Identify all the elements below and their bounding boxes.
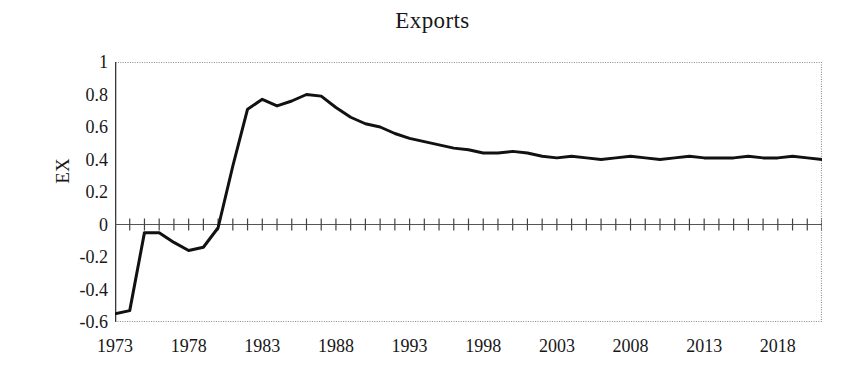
x-tick-label: 2003 — [539, 336, 575, 357]
data-series-group — [115, 95, 822, 314]
x-tick-label: 2018 — [760, 336, 796, 357]
y-tick-label: 1 — [50, 52, 108, 73]
y-axis-tick-labels: 10.80.60.40.20-0.2-0.4-0.6 — [46, 62, 108, 322]
x-tick-label: 2008 — [613, 336, 649, 357]
y-tick-label: 0.4 — [50, 149, 108, 170]
x-tick-label: 1983 — [244, 336, 280, 357]
x-tick-label: 1993 — [392, 336, 428, 357]
x-tick-label: 1973 — [97, 336, 133, 357]
y-tick-label: 0.2 — [50, 182, 108, 203]
y-tick-label: -0.6 — [50, 312, 108, 333]
line-chart-svg — [115, 62, 822, 322]
y-tick-label: 0 — [50, 214, 108, 235]
y-tick-label: -0.2 — [50, 247, 108, 268]
x-tick-label: 2013 — [686, 336, 722, 357]
chart-figure: Exports EX 10.80.60.40.20-0.2-0.4-0.6 19… — [0, 0, 865, 383]
x-tick-label: 1988 — [318, 336, 354, 357]
y-tick-label: 0.6 — [50, 117, 108, 138]
chart-title: Exports — [0, 8, 865, 34]
x-axis-tick-labels: 1973197819831988199319982003200820132018 — [0, 336, 865, 366]
x-tick-label: 1978 — [171, 336, 207, 357]
x-tick-label: 1998 — [465, 336, 501, 357]
plot-area — [115, 62, 822, 322]
y-tick-label: 0.8 — [50, 84, 108, 105]
plot-border — [116, 62, 822, 322]
y-tick-label: -0.4 — [50, 279, 108, 300]
